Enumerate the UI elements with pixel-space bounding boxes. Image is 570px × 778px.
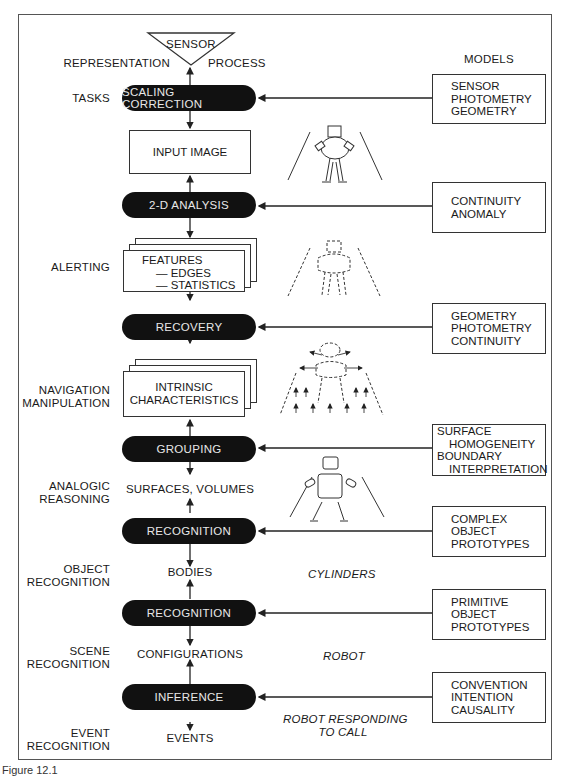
model-line: ANOMALY — [451, 208, 545, 221]
model-line: PRIMITIVE — [451, 596, 545, 609]
input-image-label: INPUT IMAGE — [153, 146, 228, 158]
figure-caption: Figure 12.1 — [2, 764, 58, 776]
task-line: REASONING — [10, 493, 110, 506]
model-line: OBJECT — [451, 608, 545, 621]
task-alerting: ALERTING — [20, 261, 110, 274]
task-line: MANIPULATION — [10, 397, 110, 410]
features-item: — STATISTICS — [142, 279, 244, 292]
process-inference: INFERENCE — [122, 684, 256, 710]
model-primitive: PRIMITIVE OBJECT PROTOTYPES — [432, 589, 546, 640]
model-line: INTERPRETATION — [437, 463, 545, 476]
task-analogic: ANALOGIC REASONING — [10, 480, 110, 505]
configurations-label: CONFIGURATIONS — [120, 648, 260, 661]
model-line: PROTOTYPES — [451, 621, 545, 634]
task-tasks: TASKS — [20, 92, 110, 105]
model-line: CAUSALITY — [451, 704, 545, 717]
task-line: ANALOGIC — [10, 480, 110, 493]
task-event-recognition: EVENT RECOGNITION — [10, 727, 110, 752]
surfaces-volumes-label: SURFACES, VOLUMES — [120, 483, 260, 496]
process-grouping: GROUPING — [122, 436, 256, 462]
sensor-label: SENSOR — [150, 38, 232, 51]
features-item: — EDGES — [142, 267, 244, 280]
representation-header: REPRESENTATION — [40, 57, 170, 70]
process-header: PROCESS — [208, 57, 266, 70]
model-line: GEOMETRY — [451, 310, 545, 323]
task-line: RECOGNITION — [10, 658, 110, 671]
process-recognition-1: RECOGNITION — [122, 518, 256, 544]
robot-image-icon — [288, 126, 382, 182]
model-convention: CONVENTION INTENTION CAUSALITY — [432, 672, 546, 723]
robot-call-line: ROBOT RESPONDING — [283, 713, 403, 726]
model-line: BOUNDARY — [437, 450, 545, 463]
model-surface: SURFACE HOMOGENEITY BOUNDARY INTERPRETAT… — [432, 424, 546, 476]
model-line: SURFACE — [437, 425, 545, 438]
task-line: RECOGNITION — [10, 576, 110, 589]
model-line: CONVENTION — [451, 679, 545, 692]
intrinsic-line: CHARACTERISTICS — [124, 394, 244, 407]
process-recognition-2: RECOGNITION — [122, 600, 256, 626]
model-line: SENSOR — [451, 80, 545, 93]
features-box: FEATURES — EDGES — STATISTICS — [123, 250, 245, 292]
robot-call-line: TO CALL — [283, 726, 403, 739]
task-line: RECOGNITION — [10, 740, 110, 753]
bodies-label: BODIES — [120, 566, 260, 579]
events-label: EVENTS — [120, 732, 260, 745]
robot-call-label: ROBOT RESPONDING TO CALL — [283, 713, 403, 738]
model-line: CONTINUITY — [451, 335, 545, 348]
intrinsic-box: INTRINSIC CHARACTERISTICS — [123, 371, 245, 417]
robot-cylinders-icon — [290, 457, 384, 521]
process-2d-analysis: 2-D ANALYSIS — [122, 192, 256, 218]
model-line: CONTINUITY — [451, 195, 545, 208]
model-sensor: SENSOR PHOTOMETRY GEOMETRY — [432, 74, 546, 124]
input-image-box: INPUT IMAGE — [129, 130, 251, 174]
robot-label: ROBOT — [323, 650, 365, 663]
model-line: HOMOGENEITY — [437, 438, 545, 451]
robot-edges-icon — [288, 241, 380, 296]
task-navigation: NAVIGATION MANIPULATION — [10, 384, 110, 409]
task-line: EVENT — [10, 727, 110, 740]
model-line: PHOTOMETRY — [451, 93, 545, 106]
model-complex: COMPLEX OBJECT PROTOTYPES — [432, 506, 546, 557]
model-line: OBJECT — [451, 525, 545, 538]
cylinders-label: CYLINDERS — [308, 568, 376, 581]
models-header: MODELS — [464, 53, 514, 66]
model-line: COMPLEX — [451, 513, 545, 526]
robot-intrinsic-icon — [280, 343, 383, 415]
features-title: FEATURES — [142, 254, 244, 267]
model-line: PROTOTYPES — [451, 538, 545, 551]
task-object-recognition: OBJECT RECOGNITION — [10, 563, 110, 588]
model-line: GEOMETRY — [451, 105, 545, 118]
model-continuity: CONTINUITY ANOMALY — [432, 182, 546, 233]
task-scene-recognition: SCENE RECOGNITION — [10, 645, 110, 670]
model-line: INTENTION — [451, 691, 545, 704]
process-recovery: RECOVERY — [122, 314, 256, 340]
process-scaling-correction: SCALING CORRECTION — [122, 85, 256, 111]
task-line: NAVIGATION — [10, 384, 110, 397]
model-geometry: GEOMETRY PHOTOMETRY CONTINUITY — [432, 303, 546, 354]
task-line: OBJECT — [10, 563, 110, 576]
intrinsic-line: INTRINSIC — [124, 381, 244, 394]
model-line: PHOTOMETRY — [451, 322, 545, 335]
task-line: SCENE — [10, 645, 110, 658]
